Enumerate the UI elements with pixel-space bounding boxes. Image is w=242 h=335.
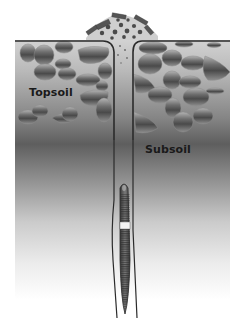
soil-profile-illustration (0, 0, 242, 335)
worm-clitellum (120, 222, 130, 229)
subsoil-label: Subsoil (145, 143, 191, 156)
topsoil-label: Topsoil (29, 86, 73, 99)
earthworm (120, 184, 130, 314)
soil-diagram: Topsoil Subsoil (0, 0, 242, 335)
